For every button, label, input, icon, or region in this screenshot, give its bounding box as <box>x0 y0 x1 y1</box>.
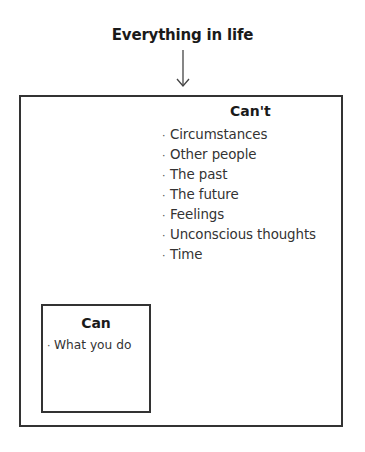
list-item-label: Unconscious thoughts <box>170 227 316 242</box>
list-item: ·Unconscious thoughts <box>162 225 316 245</box>
list-item-label: Feelings <box>170 207 224 222</box>
cant-heading: Can't <box>230 103 271 119</box>
cant-list: ·Circumstances ·Other people ·The past ·… <box>162 125 316 265</box>
list-item-label: Other people <box>170 147 256 162</box>
can-box: Can ·What you do <box>41 304 151 413</box>
down-arrow-icon <box>176 50 190 88</box>
bullet-icon: · <box>162 226 170 246</box>
list-item: ·Time <box>162 245 316 265</box>
list-item: ·The past <box>162 165 316 185</box>
list-item: ·Other people <box>162 145 316 165</box>
list-item-label: The future <box>170 187 239 202</box>
list-item-label: Circumstances <box>170 127 267 142</box>
bullet-icon: · <box>162 146 170 166</box>
can-list: ·What you do <box>47 336 131 355</box>
bullet-icon: · <box>162 186 170 206</box>
list-item-label: The past <box>170 167 227 182</box>
list-item: ·The future <box>162 185 316 205</box>
list-item: ·What you do <box>47 336 131 355</box>
can-heading: Can <box>43 315 149 331</box>
bullet-icon: · <box>162 206 170 226</box>
bullet-icon: · <box>162 126 170 146</box>
list-item-label: What you do <box>54 338 131 352</box>
list-item: ·Feelings <box>162 205 316 225</box>
diagram-title: Everything in life <box>0 26 365 44</box>
bullet-icon: · <box>162 246 170 266</box>
list-item-label: Time <box>170 247 202 262</box>
bullet-icon: · <box>47 337 54 355</box>
list-item: ·Circumstances <box>162 125 316 145</box>
bullet-icon: · <box>162 166 170 186</box>
